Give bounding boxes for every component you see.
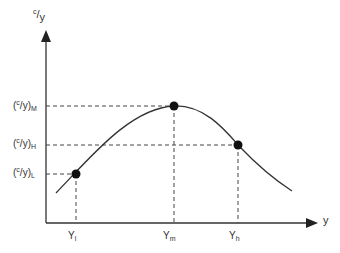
tick-cy-L: (c/y)L [13,166,35,179]
tick-den: y [23,167,28,178]
tick-den: y [23,100,28,111]
tick-sub: L [31,172,35,179]
point-M [170,102,179,111]
tick-sub: m [170,235,176,242]
tick-sub: H [31,143,36,150]
diagram-canvas [0,0,340,253]
x-axis-arrow-icon [306,218,318,228]
tick-sub: h [236,235,240,242]
y-axis-arrow-icon [41,30,51,42]
tick-den: y [23,138,28,149]
tick-num: c [16,99,20,106]
tick-sub: M [31,105,37,112]
point-H [234,141,243,150]
point-L [72,170,81,179]
y-axis-label-num: c [33,8,37,15]
tick-cy-H: (c/y)H [13,137,36,150]
tick-Y-h: Yh [229,230,240,242]
tick-sub: l [75,235,77,242]
y-axis-label: c/y [33,8,45,23]
tick-base: Y [68,230,75,241]
x-axis-label: y [323,214,329,226]
tick-num: c [16,166,20,173]
y-axis-label-den: y [40,11,46,23]
tick-base: Y [163,230,170,241]
tick-Y-l: Yl [68,230,76,242]
tick-cy-M: (c/y)M [13,99,37,112]
tick-base: Y [229,230,236,241]
tick-Y-m: Ym [163,230,176,242]
tick-num: c [16,137,20,144]
